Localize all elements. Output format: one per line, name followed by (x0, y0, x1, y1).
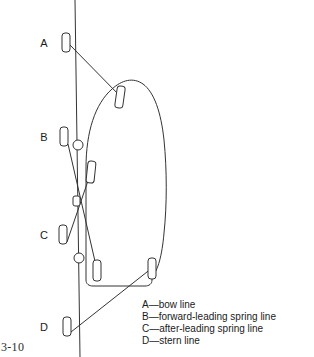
bollard-c (59, 225, 67, 244)
mooring-diagram-figure: A B C D A—bow line B—forward-leading spr… (0, 0, 314, 357)
fender-aft (74, 253, 84, 263)
bollard-d (63, 317, 71, 336)
legend-item-c: C—after-leading spring line (142, 323, 276, 335)
forward-deck-cleat (86, 161, 96, 184)
point-label-c: C (40, 229, 48, 241)
stern-cleat-starboard (148, 258, 156, 279)
bollard-b (60, 127, 68, 146)
legend: A—bow line B—forward-leading spring line… (142, 299, 276, 347)
mooring-line-a-bow (70, 45, 121, 97)
legend-item-a: A—bow line (142, 299, 276, 311)
midship-cleat (73, 196, 80, 206)
stern-cleat-port (93, 260, 101, 281)
bollard-a (62, 33, 70, 52)
fender-forward (73, 140, 83, 150)
point-label-b: B (40, 131, 47, 143)
bow-cleat (115, 86, 126, 109)
legend-item-b: B—forward-leading spring line (142, 311, 276, 323)
point-label-d: D (40, 321, 48, 333)
figure-number: 3-10 (1, 340, 24, 355)
mooring-line-d-stern (71, 268, 152, 332)
point-label-a: A (40, 37, 48, 49)
legend-item-d: D—stern line (142, 335, 276, 347)
vessel-hull-outline (86, 80, 166, 286)
